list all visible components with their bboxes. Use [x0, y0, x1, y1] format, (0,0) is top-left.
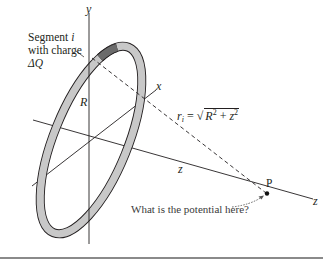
point-p	[265, 191, 269, 195]
formula-plus: +	[217, 109, 230, 123]
formula-z-exp: 2	[234, 108, 238, 117]
distance-formula: ri = √R2 + z2	[177, 108, 239, 124]
segment-label-line2: with charge	[28, 44, 82, 57]
z-axis-label: z	[313, 195, 318, 207]
bottom-rule	[0, 257, 323, 259]
formula-R: R	[205, 109, 212, 123]
formula-radicand: R2 + z2	[204, 108, 239, 123]
segment-word: Segment	[28, 31, 71, 43]
z-distance-label: z	[178, 163, 183, 175]
formula-equals: =	[184, 109, 197, 123]
segment-label-charge: ΔQ	[28, 57, 82, 70]
x-axis-label: x	[156, 80, 161, 92]
segment-index: i	[71, 31, 74, 43]
y-axis-label: y	[86, 3, 91, 15]
point-p-label: P	[266, 178, 272, 190]
segment-label: Segment i with charge ΔQ	[28, 31, 82, 70]
segment-label-line1: Segment i	[28, 31, 82, 44]
formula-radical: √	[197, 109, 204, 123]
potential-question-caption: What is the potential here?	[131, 204, 249, 215]
radius-label: R	[80, 96, 87, 108]
